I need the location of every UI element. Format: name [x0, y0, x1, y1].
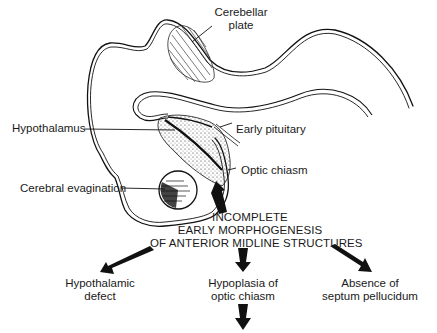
label-optic-chiasm: Optic chiasm — [241, 164, 307, 177]
outcome-line: defect — [60, 290, 140, 303]
cerebral-evagination-shape — [159, 171, 197, 209]
outcome-septum-absence: Absence of septum pellucidum — [322, 277, 418, 303]
arrow-to-optic-hypoplasia — [235, 248, 251, 272]
outcome-line: Hypoplasia of — [200, 277, 286, 290]
label-cerebellar-plate: Cerebellar plate — [213, 6, 269, 32]
cerebral-evagination-leader — [121, 188, 165, 189]
label-cerebellar-plate-line2: plate — [213, 19, 269, 32]
label-early-pituitary: Early pituitary — [236, 123, 306, 136]
label-hypothalamus: Hypothalamus — [12, 122, 86, 135]
central-cause-line2: EARLY MORPHOGENESIS — [150, 224, 350, 237]
outcome-line: optic chiasm — [200, 290, 286, 303]
outcome-line: Hypothalamic — [60, 277, 140, 290]
arrow-continuation — [235, 304, 251, 330]
outcome-line: Absence of — [322, 277, 418, 290]
outcome-hypothalamic-defect: Hypothalamic defect — [60, 277, 140, 303]
outcome-optic-hypoplasia: Hypoplasia of optic chiasm — [200, 277, 286, 303]
arrow-to-hypothalamic-defect — [100, 246, 154, 274]
early-pituitary-leader — [220, 123, 232, 127]
label-cerebral-evagination: Cerebral evagination — [20, 182, 126, 195]
cerebellar-plate-leader — [192, 26, 212, 42]
central-cause-text: INCOMPLETE EARLY MORPHOGENESIS OF ANTERI… — [150, 211, 350, 250]
label-cerebellar-plate-line1: Cerebellar — [213, 6, 269, 19]
central-cause-line3: OF ANTERIOR MIDLINE STRUCTURES — [150, 237, 350, 250]
outcome-line: septum pellucidum — [322, 290, 418, 303]
central-cause-line1: INCOMPLETE — [150, 211, 350, 224]
